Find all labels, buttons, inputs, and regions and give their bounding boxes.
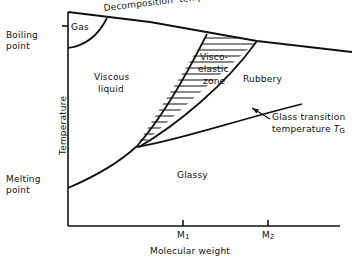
glass-transition-label-line1: Glass transition (272, 112, 345, 123)
tick-label-m2-base: M (262, 230, 270, 240)
viscoelastic-right-edge (139, 41, 257, 147)
glass-transition-arrowhead (252, 108, 259, 114)
region-label-glassy: Glassy (177, 170, 208, 181)
x-axis-label: Molecular weight (130, 246, 250, 257)
melting-curve (68, 146, 137, 188)
region-label-gas: Gas (71, 22, 89, 33)
glass-transition-label-text: temperature (272, 124, 334, 134)
y-axis-label: Temperature (58, 96, 69, 155)
tick-label-m2-subscript: 2 (270, 233, 275, 241)
region-label-viscoelastic-line2: elastic (198, 64, 229, 75)
region-label-rubbery: Rubbery (243, 74, 282, 85)
region-label-viscoelastic-line1: Visco- (200, 52, 228, 63)
region-label-viscoelastic-line3: zone (203, 76, 225, 87)
glass-transition-label-line2: temperature TG (272, 124, 345, 137)
axis-mark-melting-point: Melting point (6, 174, 41, 195)
decomposition-line (68, 12, 352, 52)
viscoelastic-left-edge (137, 34, 207, 146)
tick-label-m2: M2 (262, 230, 275, 243)
region-label-viscous-liquid-line2: liquid (98, 84, 124, 95)
axis-mark-boiling-point: Boiling point (6, 30, 38, 51)
tick-label-m1: M1 (177, 230, 190, 243)
tick-label-m1-base: M (177, 230, 185, 240)
phase-diagram-figure: Boiling point Melting point Temperature … (0, 0, 357, 265)
glass-transition-subscript: G (340, 127, 346, 135)
tick-label-m1-subscript: 1 (185, 233, 190, 241)
region-label-viscous-liquid-line1: Viscous (94, 72, 129, 83)
